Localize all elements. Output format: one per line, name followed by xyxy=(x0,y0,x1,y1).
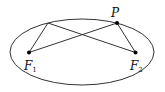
point-p-dot xyxy=(115,21,119,25)
segment-p-f2 xyxy=(117,23,136,53)
segment-q-f2 xyxy=(48,23,136,53)
label-f1-sub: 1 xyxy=(32,66,36,74)
segment-q-f1 xyxy=(29,23,48,53)
point-f2-dot xyxy=(134,51,138,55)
label-f2: F2 xyxy=(129,59,143,74)
ellipse-diagram: P F1 F2 xyxy=(0,0,165,92)
label-f2-sub: 2 xyxy=(138,66,142,74)
segment-p-f1 xyxy=(29,23,117,53)
label-f1: F1 xyxy=(23,59,37,74)
point-f1-dot xyxy=(27,51,31,55)
label-p: P xyxy=(110,6,120,20)
